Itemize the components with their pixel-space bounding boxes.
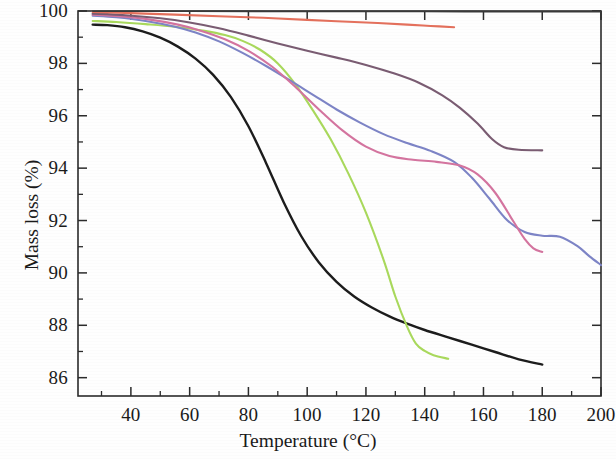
y-tick-label-88: 88 — [8, 314, 68, 336]
tga-mass-loss-chart: 10098969492908886 4060801001201401601802… — [0, 0, 616, 459]
x-tick-label-80: 80 — [239, 404, 258, 426]
x-tick-label-100: 100 — [293, 404, 322, 426]
x-tick-label-120: 120 — [351, 404, 380, 426]
y-tick-label-98: 98 — [8, 52, 68, 74]
series-green-curve — [93, 21, 449, 359]
x-tick-label-60: 60 — [180, 404, 199, 426]
y-tick-label-96: 96 — [8, 105, 68, 127]
y-tick-label-100: 100 — [8, 0, 68, 22]
plot-area — [0, 0, 616, 459]
series-blue-curve — [93, 16, 601, 265]
x-tick-label-200: 200 — [586, 404, 615, 426]
y-axis-title: Mass loss (%) — [21, 125, 43, 305]
x-tick-label-160: 160 — [469, 404, 498, 426]
series-plum-curve — [93, 14, 543, 151]
plot-frame — [78, 11, 601, 396]
series-black-curve — [93, 25, 543, 365]
x-axis-title: Temperature (°C) — [0, 430, 616, 452]
x-tick-label-140: 140 — [410, 404, 439, 426]
x-tick-label-40: 40 — [121, 404, 140, 426]
series-magenta-curve — [93, 15, 543, 252]
series-top-dark-curve — [93, 11, 601, 12]
y-tick-label-86: 86 — [8, 367, 68, 389]
x-tick-label-180: 180 — [528, 404, 557, 426]
